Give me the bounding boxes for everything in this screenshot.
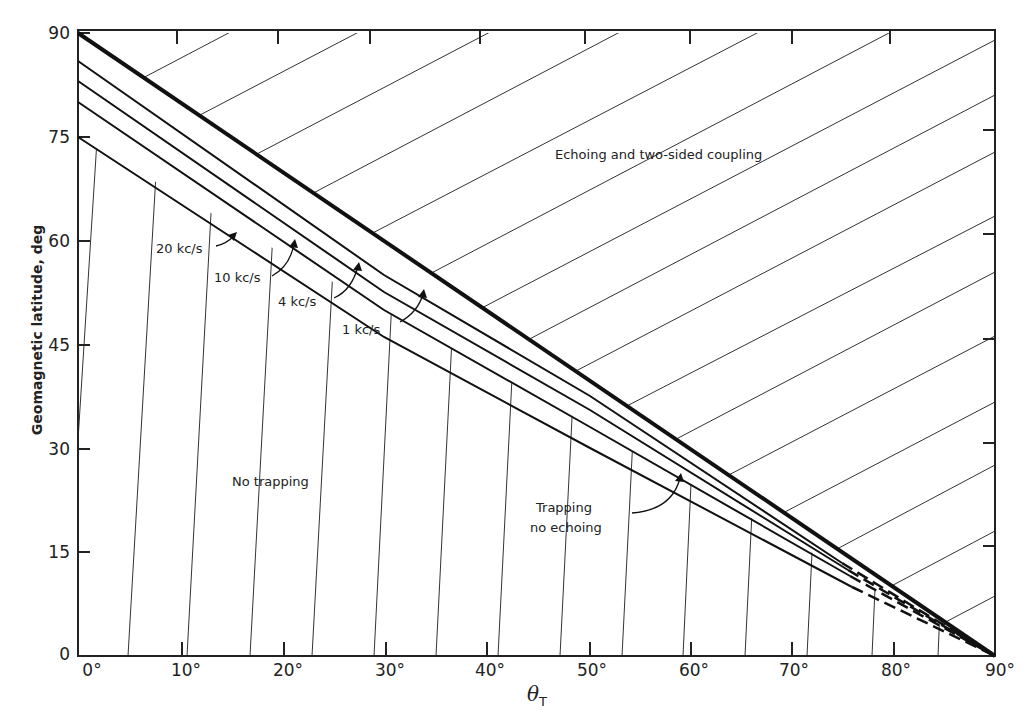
label-trapping-2: no echoing: [530, 520, 602, 535]
svg-text:70°: 70°: [779, 660, 809, 680]
latitude-vs-theta-chart: Echoing and two-sided coupling No trappi…: [0, 0, 1035, 718]
curve-10kcs: [78, 102, 850, 576]
lower-region-hatching: [78, 140, 960, 656]
label-trapping-1: Trapping: [535, 500, 592, 515]
svg-text:80°: 80°: [881, 660, 911, 680]
svg-text:0: 0: [59, 644, 70, 664]
svg-text:75: 75: [48, 127, 70, 147]
y-axis-title: Geomagnetic latitude, deg: [29, 225, 45, 435]
curve-1kcs: [78, 61, 842, 563]
svg-text:30: 30: [48, 439, 70, 459]
label-4kcs: 4 kc/s: [278, 294, 316, 309]
x-tick-labels: 0° 10° 20° 30° 40° 50° 60° 70° 80° 90°: [82, 660, 1015, 680]
svg-text:60: 60: [48, 231, 70, 251]
y-ticks-right: [983, 130, 995, 546]
svg-text:50°: 50°: [577, 660, 607, 680]
y-ticks-left: [78, 33, 90, 552]
x-ticks-top: [177, 30, 890, 44]
x-ticks-bottom: [182, 642, 894, 656]
svg-text:60°: 60°: [679, 660, 709, 680]
y-tick-labels: 0 15 30 45 60 75 90: [48, 23, 70, 664]
svg-text:20°: 20°: [273, 660, 303, 680]
arrow-heads: [228, 232, 684, 482]
svg-text:30°: 30°: [375, 660, 405, 680]
label-20kcs: 20 kc/s: [156, 241, 203, 256]
label-10kcs: 10 kc/s: [214, 270, 261, 285]
label-1kcs: 1 kc/s: [342, 322, 380, 337]
x-axis-title: θT: [527, 682, 547, 709]
svg-text:40°: 40°: [475, 660, 505, 680]
frequency-curves: [78, 61, 852, 587]
svg-text:15: 15: [48, 542, 70, 562]
svg-text:10°: 10°: [171, 660, 201, 680]
svg-text:90: 90: [48, 23, 70, 43]
label-echoing-region: Echoing and two-sided coupling: [555, 147, 762, 162]
svg-text:45: 45: [48, 335, 70, 355]
svg-text:0°: 0°: [82, 660, 101, 680]
svg-text:90°: 90°: [985, 660, 1015, 680]
label-arrows: [216, 236, 680, 513]
label-no-trapping: No trapping: [232, 474, 309, 489]
